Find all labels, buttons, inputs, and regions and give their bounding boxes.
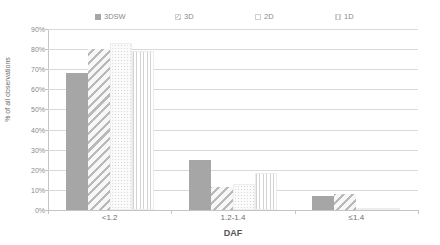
x-axis-title: DAF	[48, 229, 418, 238]
y-tick-label: 30%	[17, 146, 45, 153]
legend-item-1d[interactable]: 1D	[335, 13, 415, 21]
bar-3d-2[interactable]	[334, 194, 356, 210]
legend-swatch-icon	[335, 14, 341, 20]
x-tick-mark	[295, 210, 296, 214]
bar-3dsw-1[interactable]	[189, 160, 211, 210]
plot-area	[48, 29, 418, 210]
y-tick-label: 70%	[17, 66, 45, 73]
gridline	[48, 210, 418, 211]
y-tick-label: 40%	[17, 126, 45, 133]
chart-legend: 3DSW 3D 2D 1D	[95, 9, 415, 25]
legend-item-3dsw[interactable]: 3DSW	[95, 13, 175, 21]
legend-swatch-icon	[95, 14, 101, 20]
x-tick-mark	[418, 210, 419, 214]
legend-item-3d[interactable]: 3D	[175, 13, 255, 21]
legend-swatch-icon	[255, 14, 261, 20]
y-tick-label: 10%	[17, 186, 45, 193]
legend-swatch-icon	[175, 14, 181, 20]
y-tick-label: 50%	[17, 106, 45, 113]
bar-group	[48, 29, 171, 210]
bar-1d-2[interactable]	[378, 208, 400, 210]
y-axis-title: % of all observations	[4, 30, 11, 150]
bar-2d-1[interactable]	[233, 184, 255, 210]
x-tick-label: ≤1.4	[311, 214, 401, 222]
bar-group	[171, 29, 294, 210]
x-tick-label: 1.2-1.4	[188, 214, 278, 222]
bar-3dsw-0[interactable]	[66, 73, 88, 210]
bar-2d-0[interactable]	[110, 43, 132, 210]
legend-item-2d[interactable]: 2D	[255, 13, 335, 21]
bar-1d-0[interactable]	[132, 51, 154, 210]
bar-group	[295, 29, 418, 210]
y-tick-label: 0%	[17, 207, 45, 214]
bar-3d-0[interactable]	[88, 49, 110, 210]
y-axis-ticks: 0%10%20%30%40%50%60%70%80%90%	[14, 29, 45, 210]
y-tick-label: 90%	[17, 26, 45, 33]
x-axis-ticks: <1.21.2-1.4≤1.4	[48, 214, 418, 226]
y-tick-label: 60%	[17, 86, 45, 93]
bar-chart: 3DSW 3D 2D 1D % of all observations 0%10…	[0, 0, 440, 245]
x-tick-label: <1.2	[65, 214, 155, 222]
legend-label: 1D	[344, 13, 354, 21]
bar-3d-1[interactable]	[211, 187, 233, 210]
bar-3dsw-2[interactable]	[312, 196, 334, 210]
legend-label: 3D	[184, 13, 194, 21]
legend-label: 2D	[264, 13, 274, 21]
legend-label: 3DSW	[104, 13, 126, 21]
bar-1d-1[interactable]	[255, 173, 277, 210]
bar-2d-2[interactable]	[356, 208, 378, 210]
x-tick-mark	[171, 210, 172, 214]
y-tick-label: 20%	[17, 166, 45, 173]
x-tick-mark	[48, 210, 49, 214]
y-tick-label: 80%	[17, 46, 45, 53]
